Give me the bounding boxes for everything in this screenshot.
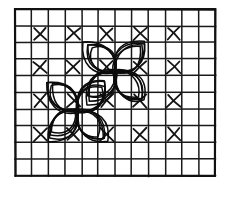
rosette-lower-left — [47, 80, 109, 141]
rosette-layer — [47, 41, 145, 142]
line-drawing — [0, 0, 228, 199]
figure-canvas: Monochrome line drawing: graph-paper gri… — [0, 0, 228, 199]
grid-layer — [15, 9, 216, 177]
x-mark-stroke — [167, 62, 180, 74]
